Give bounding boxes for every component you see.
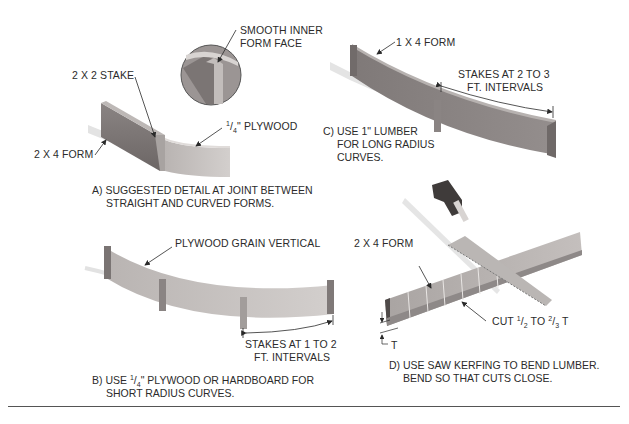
- label-stakes-2-3-line2: FT. INTERVALS: [467, 81, 543, 94]
- label-stakes-2-3-line1: STAKES AT 2 TO 3: [458, 68, 550, 81]
- label-1x4-form: 1 X 4 FORM: [396, 36, 455, 49]
- label-stakes-1-2-line2: FT. INTERVALS: [254, 351, 330, 364]
- label-stakes-1-2-line1: STAKES AT 1 TO 2: [245, 338, 337, 351]
- label-smooth-face-2: FORM FACE: [240, 37, 302, 50]
- label-2x2-stake: 2 X 2 STAKE: [72, 69, 134, 82]
- caption-panel-d: D) USE SAW KERFING TO BEND LUMBER. BEND …: [389, 359, 599, 385]
- label-cut-depth: CUT 1/2 TO 2/3 T: [492, 315, 569, 328]
- caption-panel-c: C) USE 1" LUMBER FOR LONG RADIUS CURVES.: [323, 125, 434, 164]
- label-quarter-plywood: 1/4" PLYWOOD: [226, 120, 297, 133]
- label-plywood-grain: PLYWOOD GRAIN VERTICAL: [175, 237, 320, 250]
- label-2x4-form-a: 2 X 4 FORM: [34, 148, 93, 161]
- caption-panel-a: A) SUGGESTED DETAIL AT JOINT BETWEEN STR…: [92, 184, 313, 210]
- panel-b-artwork: [85, 246, 334, 338]
- caption-panel-b: B) USE 1/4" PLYWOOD OR HARDBOARD FOR SHO…: [92, 374, 314, 400]
- bottom-rule-divider: [8, 406, 620, 407]
- panel-a-artwork: [88, 30, 241, 177]
- label-smooth-face-1: SMOOTH INNER: [240, 24, 323, 37]
- label-2x4-form-d: 2 X 4 FORM: [354, 237, 413, 250]
- label-thickness-t: T: [391, 339, 398, 352]
